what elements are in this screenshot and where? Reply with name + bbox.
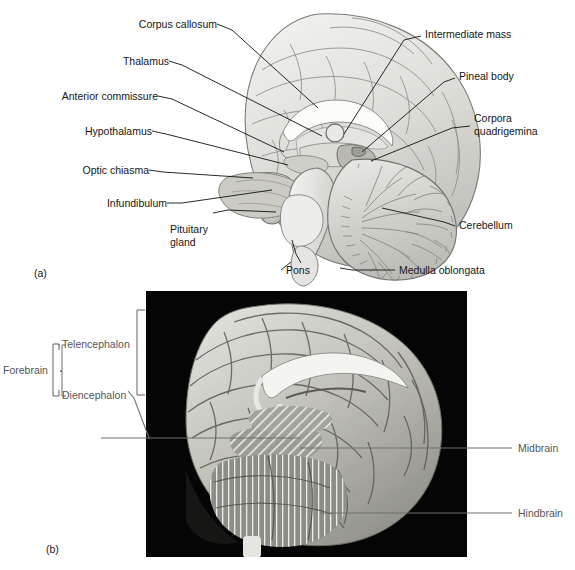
label-anterior-commissure: Anterior commissure [10, 90, 158, 103]
label-telencephalon: Telencephalon [62, 338, 152, 351]
label-pons: Pons [286, 264, 336, 277]
infundibulum-shape [272, 184, 274, 208]
label-intermediate-mass: Intermediate mass [425, 28, 575, 41]
label-corpora-quadrigemina: Corpora quadrigemina [474, 112, 574, 137]
cerebrum-illustration [219, 14, 481, 286]
pons-shape [280, 195, 323, 247]
optic-chiasma-shape [250, 173, 290, 186]
panel-b-photograph-frame [146, 291, 467, 557]
label-hypothalamus: Hypothalamus [30, 125, 152, 138]
pineal-body-shape [352, 147, 366, 156]
cerebellum-shape [328, 159, 457, 280]
hindbrain-region [200, 445, 360, 555]
midbrain-region [220, 415, 335, 475]
label-pituitary-gland: Pituitary gland [170, 223, 240, 248]
intermediate-mass-shape [326, 124, 344, 142]
pituitary-gland-shape [261, 206, 283, 224]
label-diencephalon: Diencephalon [62, 389, 152, 402]
brain-figure: Corpus callosum Thalamus Anterior commis… [0, 0, 575, 570]
photo-forebrain-bracket [137, 310, 145, 395]
label-optic-chiasma: Optic chiasma [35, 164, 149, 177]
panel-tag-a: (a) [34, 267, 47, 279]
label-cerebellum: Cerebellum [459, 219, 559, 232]
forebrain-bracket [53, 344, 59, 396]
label-infundibulum: Infundibulum [55, 197, 167, 210]
label-hindbrain: Hindbrain [518, 507, 575, 520]
label-forebrain: Forebrain [3, 364, 53, 377]
panel-b-brackets [0, 0, 575, 570]
label-medulla-oblongata: Medulla oblongata [399, 264, 569, 277]
hypothalamus-shape [284, 156, 328, 175]
corpora-quadrigemina-shape [337, 145, 375, 172]
label-thalamus: Thalamus [55, 55, 169, 68]
label-corpus-callosum: Corpus callosum [55, 18, 217, 31]
panel-b-region-leaders [300, 448, 512, 513]
panel-tag-b: (b) [46, 543, 59, 555]
panel-b-specimen [0, 0, 575, 570]
label-midbrain: Midbrain [518, 442, 575, 455]
label-pineal-body: Pineal body [459, 70, 569, 83]
panel-a-illustration [0, 0, 575, 570]
